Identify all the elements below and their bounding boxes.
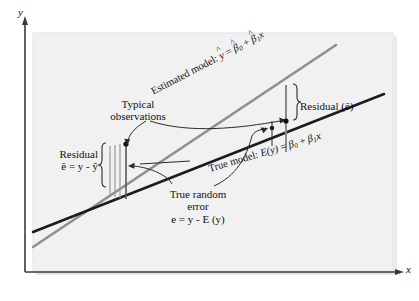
panel-shadow-right xyxy=(393,36,397,274)
right-observation-point xyxy=(283,118,288,123)
true-model-intercept-subscript: 0 xyxy=(293,142,299,151)
true-random-error-line2: error xyxy=(136,200,260,212)
x-axis-arrowhead xyxy=(395,269,404,275)
typical-observations-label: Typical observations xyxy=(96,98,180,123)
typical-observations-line2: observations xyxy=(96,110,180,122)
typical-observations-line1: Typical xyxy=(96,98,180,110)
residual-left-title: Residual xyxy=(24,148,98,160)
regression-diagram-figure: Typical observations Estimated model: ^y… xyxy=(0,0,419,301)
y-axis-label: y xyxy=(18,6,23,18)
x-axis-label: x xyxy=(406,263,411,275)
residual-left-label: Residual ê = y - ŷ xyxy=(24,148,98,173)
true-random-error-formula: e = y - E (y) xyxy=(136,213,260,225)
true-random-error-line1: True random xyxy=(136,188,260,200)
true-random-error-label: True random error e = y - E (y) xyxy=(136,188,260,225)
residual-left-formula: ê = y - ŷ xyxy=(24,160,98,172)
true-model-plus: + xyxy=(298,135,307,147)
true-model-equals: = xyxy=(279,140,288,152)
residual-right-label: Residual (ê) xyxy=(300,100,353,112)
